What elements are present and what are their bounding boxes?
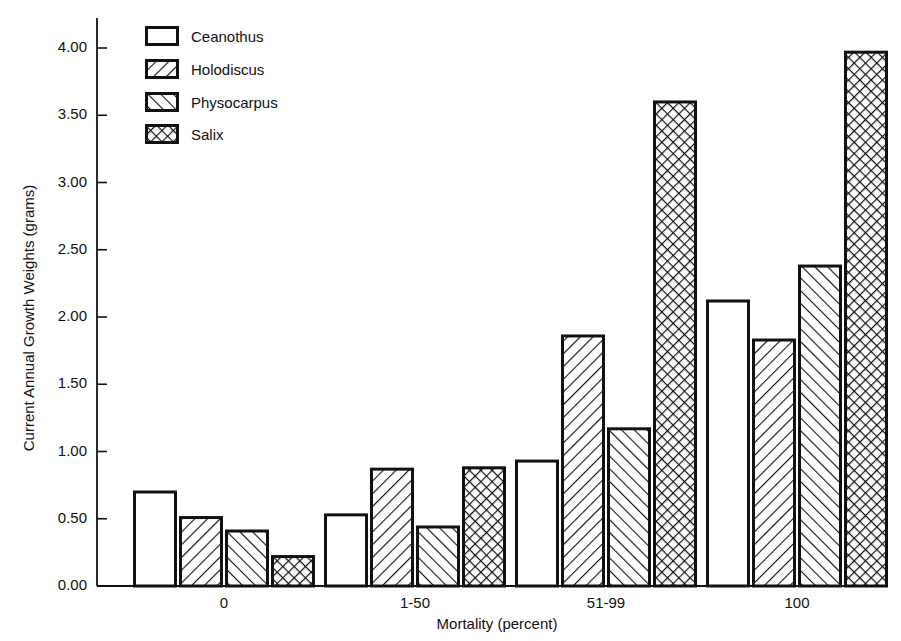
bar-ceanothus-1-50 xyxy=(326,515,367,586)
bar-salix-100 xyxy=(846,52,887,586)
bar-holodiscus-1-50 xyxy=(372,469,413,586)
bar-salix-0 xyxy=(273,557,314,586)
legend-swatch-forward-hatch-icon xyxy=(145,59,179,79)
bar-holodiscus-100 xyxy=(754,340,795,586)
bar-ceanothus-100 xyxy=(708,301,749,586)
bar-ceanothus-51-99 xyxy=(517,461,558,586)
legend-label: Salix xyxy=(191,126,224,143)
x-tick-label: 0 xyxy=(220,594,228,611)
x-tick-label: 51-99 xyxy=(587,594,625,611)
legend-item-holodiscus: Holodiscus xyxy=(145,58,264,80)
legend-swatch-backward-hatch-icon xyxy=(145,92,179,112)
bar-physocarpus-1-50 xyxy=(418,527,459,586)
y-tick-label: 3.50 xyxy=(27,105,87,122)
bar-salix-1-50 xyxy=(464,468,505,586)
legend-swatch-crosshatch-icon xyxy=(145,124,179,144)
bar-salix-51-99 xyxy=(655,102,696,586)
legend-item-ceanothus: Ceanothus xyxy=(145,25,264,47)
bar-physocarpus-51-99 xyxy=(609,429,650,586)
y-tick-label: 1.00 xyxy=(27,442,87,459)
bar-physocarpus-0 xyxy=(227,531,268,586)
y-tick-label: 0.00 xyxy=(27,576,87,593)
bar-chart xyxy=(0,0,901,641)
legend-label: Ceanothus xyxy=(191,28,264,45)
x-axis-label: Mortality (percent) xyxy=(437,615,558,632)
legend-label: Holodiscus xyxy=(191,61,264,78)
y-tick-label: 0.50 xyxy=(27,509,87,526)
bar-ceanothus-0 xyxy=(135,492,176,586)
y-tick-label: 3.00 xyxy=(27,173,87,190)
y-tick-label: 4.00 xyxy=(27,38,87,55)
legend-swatch-plain-icon xyxy=(145,26,179,46)
x-tick-label: 100 xyxy=(784,594,809,611)
bar-physocarpus-100 xyxy=(800,266,841,586)
legend-label: Physocarpus xyxy=(191,94,278,111)
y-tick-label: 1.50 xyxy=(27,374,87,391)
y-tick-label: 2.00 xyxy=(27,307,87,324)
bar-holodiscus-0 xyxy=(181,518,222,586)
y-tick-label: 2.50 xyxy=(27,240,87,257)
bars xyxy=(135,52,887,586)
legend-item-salix: Salix xyxy=(145,123,224,145)
x-tick-label: 1-50 xyxy=(400,594,430,611)
bar-holodiscus-51-99 xyxy=(563,336,604,586)
legend-item-physocarpus: Physocarpus xyxy=(145,91,278,113)
